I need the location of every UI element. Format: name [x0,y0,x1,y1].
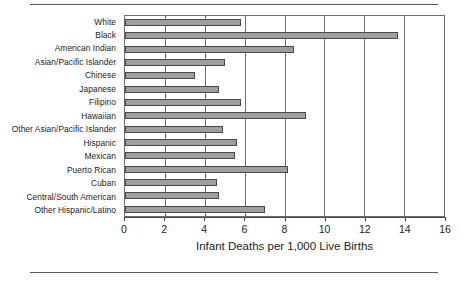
bar-row [125,189,444,202]
category-label: Chinese [0,69,120,82]
x-tick-label: 6 [241,223,247,235]
x-tick [164,217,165,221]
bar-row [125,176,444,189]
category-label: American Indian [0,42,120,55]
category-axis-labels: WhiteBlackAmerican IndianAsian/Pacific I… [0,15,120,217]
x-tick [445,217,446,221]
x-tick-label: 4 [201,223,207,235]
bar-row [125,83,444,96]
bar [125,86,219,93]
bar [125,192,219,199]
x-tick [124,217,125,221]
bar-row [125,96,444,109]
bar [125,59,225,66]
bar [125,72,195,79]
x-tick-label: 16 [439,223,451,235]
category-label: Mexican [0,150,120,163]
x-tick-label: 12 [359,223,371,235]
x-tick [244,217,245,221]
category-label: Asian/Pacific Islander [0,55,120,68]
category-label: Black [0,28,120,41]
category-label: Central/South American [0,190,120,203]
x-axis-title: Infant Deaths per 1,000 Live Births [124,240,445,252]
bar [125,19,241,26]
x-tick [325,217,326,221]
plot-area [124,15,445,217]
x-tick-label: 10 [319,223,331,235]
x-tick [204,217,205,221]
bottom-divider-rule [30,272,438,273]
bar-row [125,109,444,122]
x-tick-label: 2 [161,223,167,235]
bar-row [125,56,444,69]
bar-row [125,136,444,149]
category-label: Other Hispanic/Latino [0,204,120,217]
bar-row [125,203,444,216]
bar [125,99,241,106]
x-tick [405,217,406,221]
top-divider-rule [30,4,438,5]
category-label: Hawaiian [0,109,120,122]
bar-row [125,29,444,42]
bar [125,139,237,146]
bar [125,206,265,213]
x-tick-label: 14 [399,223,411,235]
x-tick-label: 0 [121,223,127,235]
bar [125,166,288,173]
category-label: Filipino [0,96,120,109]
bar-row [125,69,444,82]
category-label: Hispanic [0,136,120,149]
bar-row [125,163,444,176]
category-label: Cuban [0,177,120,190]
bar-row [125,43,444,56]
x-tick [365,217,366,221]
category-label: Japanese [0,82,120,95]
category-label: Other Asian/Pacific Islander [0,123,120,136]
bar [125,32,398,39]
bar [125,179,217,186]
bar-row [125,16,444,29]
bar-row [125,149,444,162]
bar [125,46,294,53]
bar [125,152,235,159]
category-label: Puerto Rican [0,163,120,176]
bar [125,126,223,133]
bar-series [125,16,444,216]
bar [125,112,306,119]
bar-row [125,123,444,136]
category-label: White [0,15,120,28]
x-tick-label: 8 [282,223,288,235]
x-tick [285,217,286,221]
infant-mortality-bar-chart: WhiteBlackAmerican IndianAsian/Pacific I… [0,0,468,282]
